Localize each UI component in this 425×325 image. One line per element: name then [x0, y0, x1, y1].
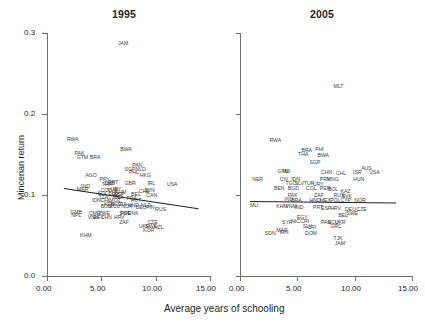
x-tick-5-2005	[297, 276, 298, 281]
y-axis-line-2005	[240, 33, 241, 277]
data-point-label: BEN	[274, 186, 285, 191]
data-point-label: IND	[295, 205, 304, 210]
x-tick-15-2005	[412, 276, 413, 281]
x-ticklabel-10-2005: 10.00	[341, 284, 361, 293]
data-point-label: CHN	[321, 170, 332, 175]
data-point-label: DOM	[305, 231, 317, 236]
data-point-label: BEL	[338, 213, 348, 218]
x-ticklabel-0-2005: 0.00	[229, 284, 245, 293]
data-point-label: IRN	[280, 230, 289, 235]
data-point-label: COL	[306, 186, 317, 191]
data-point-label: RWA	[269, 138, 281, 143]
data-point-label: THA	[298, 152, 308, 157]
data-point-label: ISR	[353, 170, 362, 175]
data-point-label: MLI	[250, 203, 259, 208]
x-axis-line-2005	[240, 276, 413, 277]
data-point-label: GRC	[330, 224, 341, 229]
y-tick-03-2005	[236, 33, 240, 34]
data-point-label: HUN	[353, 177, 364, 182]
data-point-label: SDN	[265, 231, 276, 236]
data-point-label: MLT	[334, 84, 344, 89]
mincerian-return-scatter-figure: 1995 0.3 0.2 0.1 0.0 0.00 5.00 10.00 15.…	[0, 0, 425, 325]
data-point-label: SYR	[282, 220, 293, 225]
panel-2005: 2005 0.00 5.00 10.00 15.00 MLTRWABRAPHIT…	[0, 0, 425, 325]
data-point-label: HRV	[330, 206, 341, 211]
data-point-label: MLI	[282, 169, 291, 174]
data-point-label: NER	[252, 177, 263, 182]
y-tick-02-2005	[236, 114, 240, 115]
panel-title-2005: 2005	[310, 8, 334, 20]
data-point-label: JAM	[335, 241, 345, 246]
data-point-label: CZE	[357, 207, 367, 212]
x-tick-0-2005	[240, 276, 241, 281]
x-ticklabel-5-2005: 5.00	[286, 284, 302, 293]
x-ticklabel-15-2005: 15.00	[398, 284, 418, 293]
data-point-label: BWA	[318, 153, 329, 158]
x-tick-10-2005	[355, 276, 356, 281]
data-point-label: SGP	[310, 160, 321, 165]
x-axis-label: Average years of schooling	[164, 303, 284, 314]
y-tick-01-2005	[236, 195, 240, 196]
data-point-label: USA	[369, 170, 380, 175]
data-point-label: BGD	[288, 186, 299, 191]
